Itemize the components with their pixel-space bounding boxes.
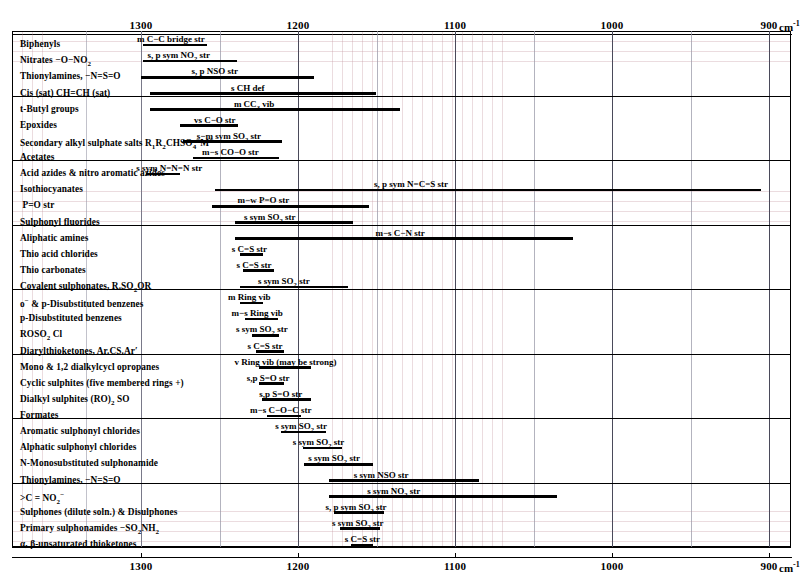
axis-tick: [769, 553, 770, 558]
axis-tick-label: 1200: [287, 560, 310, 572]
band-bar: [183, 140, 282, 143]
row-label: Dialkyl sulphites (RO)2 SO: [20, 395, 130, 407]
band-bar: [240, 302, 264, 305]
axis-tick-label: 1200: [287, 19, 310, 31]
band-bar: [235, 221, 353, 224]
correlation-chart-sheet: 1300120011001000900cm-1 Biphenylsm C−C b…: [0, 0, 810, 583]
band-bar: [351, 544, 373, 547]
axis-tick-label: 1000: [601, 560, 624, 572]
row-label: Aliphatic amines: [20, 234, 89, 243]
band-bar: [150, 108, 400, 111]
axis-tick-label: 1100: [444, 19, 466, 31]
group-separator: [12, 418, 791, 419]
row-label: Primary sulphonamides −SO2NH2: [20, 524, 159, 536]
group-separator: [12, 289, 791, 290]
group-separator: [12, 225, 791, 226]
row-label: Biphenyls: [20, 40, 60, 49]
band-bar: [259, 382, 284, 385]
band-bar: [240, 253, 264, 256]
band-bar: [267, 415, 302, 418]
band-bar: [262, 398, 311, 401]
band-bar: [193, 157, 279, 160]
band-bar: [252, 334, 279, 337]
row-label: Sulphones (dilute soln.) & Disulphones: [20, 508, 178, 517]
row-label: Nitrates −O−NO2: [20, 56, 91, 68]
band-bar: [240, 286, 348, 289]
row-label: Mono & 1,2 dialkylcycl opropanes: [20, 363, 159, 372]
band-bar: [334, 511, 384, 514]
band-bar: [243, 269, 274, 272]
axis-tick: [455, 553, 456, 558]
group-separator: [12, 160, 791, 161]
band-bar: [329, 479, 478, 482]
axis-tick: [612, 553, 613, 558]
row-label: o− & p-Disubstituted benzenes: [20, 298, 143, 309]
row-label: Thio acid chlorides: [20, 250, 98, 259]
band-bar: [146, 173, 181, 176]
row-label: Thionylamines, −N=S=O: [20, 72, 121, 81]
row-label: Alphatic sulphonyl chlorides: [20, 443, 136, 452]
band-bar: [143, 44, 207, 47]
band-bar: [304, 463, 373, 466]
axis-tick: [298, 553, 299, 558]
axis-tick-label: 1300: [130, 19, 153, 31]
band-bar: [235, 237, 573, 240]
axis-tick-label: 900: [760, 19, 777, 31]
row-label: Epoxides: [20, 121, 57, 130]
band-bar: [215, 189, 761, 192]
band-bar: [245, 318, 278, 321]
axis-tick-label: 900: [760, 560, 777, 572]
band-bar: [143, 60, 237, 63]
band-bar: [256, 350, 284, 353]
band-bar: [329, 495, 557, 498]
band-bar: [141, 76, 314, 79]
row-label: Thio carbonates: [20, 266, 86, 275]
axis-tick: [141, 553, 142, 558]
row-label: ROSO2 Cl: [20, 330, 62, 342]
band-bar: [180, 124, 238, 127]
axis-tick-label: 1300: [130, 560, 153, 572]
row-label: N-Monosubstituted sulphonamide: [20, 459, 158, 468]
group-separator: [12, 483, 791, 484]
group-separator: [12, 547, 791, 548]
group-separator: [12, 96, 791, 97]
axis-tick-label: 1100: [444, 560, 466, 572]
row-label: Covalent sulphonates, R.SO2OR: [20, 282, 151, 294]
band-bar: [212, 205, 369, 208]
row-label: Aromatic sulphonyl chlorides: [20, 427, 140, 436]
row-label: p-Disubstituted benzenes: [20, 314, 122, 323]
row-label: P=O str: [20, 201, 55, 210]
axis-rule: [12, 557, 792, 558]
band-bar: [259, 366, 311, 369]
group-separator: [12, 354, 791, 355]
row-label: Secondary alkyl sulphate salts R1R2CHSO4…: [20, 137, 213, 151]
band-bar: [281, 431, 327, 434]
row-label: >C = NO2−: [20, 492, 64, 506]
band-bar: [150, 92, 376, 95]
row-label: t-Butyl groups: [20, 105, 79, 114]
row-label: Cyclic sulphites (five membered rings +): [20, 379, 184, 388]
band-bar: [303, 447, 342, 450]
band-bar: [340, 527, 379, 530]
axis-tick-label: 1000: [601, 19, 624, 31]
axis-unit-label: cm-1: [779, 560, 800, 574]
row-label: Isothiocyanates: [20, 185, 83, 194]
axis-bottom: 1300120011001000900cm-1: [0, 553, 810, 579]
